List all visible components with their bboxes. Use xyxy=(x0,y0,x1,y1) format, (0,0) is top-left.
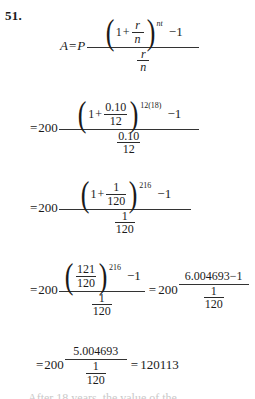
step4-inner-fraction: 121 120 xyxy=(76,263,96,289)
step1-minus-one: −1 xyxy=(163,24,183,40)
equation-step-4: = 200 ( 121 120 ) 216 −1 xyxy=(30,262,250,318)
step2-equals: = xyxy=(30,120,38,136)
step4-numerator: ( 121 120 ) 216 −1 xyxy=(60,262,144,291)
step1-exponent: nt xyxy=(157,19,163,28)
step4-coefficient: 200 xyxy=(38,282,58,298)
step5-denominator: 1 120 xyxy=(82,360,110,386)
step5-coefficient: 200 xyxy=(44,357,64,373)
paren-left-icon: ( xyxy=(80,180,89,209)
step4-main-fraction: ( 121 120 ) 216 −1 1 xyxy=(59,262,145,318)
step3-inner-fraction: 1 120 xyxy=(106,181,126,207)
math-solution-page: 51. A = P ( 1 + r n ) xyxy=(0,0,255,399)
step1-main-fraction: ( 1 + r n ) nt −1 xyxy=(87,18,199,74)
paren-right-icon: ) xyxy=(146,18,155,47)
step4-second-fraction: 6.004693−1 1 120 xyxy=(179,269,249,311)
step5-denominator-fraction: 1 120 xyxy=(86,360,106,386)
step5-equals: = xyxy=(36,357,44,373)
step4-second-equals: = xyxy=(146,282,158,298)
step2-coefficient: 200 xyxy=(38,120,58,136)
paren-right-icon: ) xyxy=(129,180,138,209)
step2-denominator-denominator: 12 xyxy=(122,143,136,156)
step1-inner-fraction-numerator: r xyxy=(134,19,141,32)
step2-inner-fraction: 0.10 12 xyxy=(104,101,127,127)
step5-main-fraction: 5.004693 1 120 xyxy=(65,344,127,386)
plus-icon: + xyxy=(97,187,106,202)
step2-numerator: ( 1 + 0.10 12 ) 12(18) −1 xyxy=(73,100,184,129)
step2-inner-fraction-denominator: 12 xyxy=(109,115,123,128)
step5-denominator-numerator: 1 xyxy=(92,360,100,373)
step5-numerator: 5.004693 xyxy=(70,344,121,359)
step1-inner-fraction: r n xyxy=(132,19,144,45)
step4-inner-fraction-numerator: 121 xyxy=(76,263,96,276)
equation-step-3: = 200 ( 1 + 1 120 ) 216 xyxy=(30,180,192,236)
step4-second-denominator-denominator: 120 xyxy=(204,298,224,311)
step4-exponent: 216 xyxy=(109,263,121,272)
step5-result-equals: = xyxy=(128,357,140,373)
step4-second-numerator: 6.004693−1 xyxy=(182,269,246,284)
problem-number: 51. xyxy=(5,8,22,24)
step4-paren-group: ( 121 120 ) 216 xyxy=(63,262,121,291)
step3-numerator: ( 1 + 1 120 ) 216 −1 xyxy=(76,180,175,209)
step1-denominator-denominator: n xyxy=(139,61,147,74)
equation-step-5: = 200 5.004693 1 120 = 120113 xyxy=(36,344,179,386)
step2-inner-fraction-numerator: 0.10 xyxy=(104,101,127,114)
step3-equals: = xyxy=(30,200,38,216)
step1-paren-group: ( 1 + r n ) nt xyxy=(104,18,163,47)
step3-denominator-denominator: 120 xyxy=(115,223,135,236)
step3-denominator-numerator: 1 xyxy=(121,210,129,223)
paren-right-icon: ) xyxy=(130,100,139,129)
paren-left-icon: ( xyxy=(65,262,74,291)
step2-exponent: 12(18) xyxy=(140,101,161,110)
step4-minus-one: −1 xyxy=(121,268,141,284)
step3-coefficient: 200 xyxy=(38,200,58,216)
step1-numerator: ( 1 + r n ) nt −1 xyxy=(101,18,186,47)
step4-second-denominator: 1 120 xyxy=(200,285,228,311)
step2-paren-group: ( 1 + 0.10 12 ) 12(18) xyxy=(76,100,161,129)
step5-denominator-denominator: 120 xyxy=(86,374,106,387)
paren-left-icon: ( xyxy=(105,18,114,47)
step2-minus-one: −1 xyxy=(161,106,181,122)
step4-inner-fraction-denominator: 120 xyxy=(76,277,96,290)
paren-left-icon: ( xyxy=(78,100,87,129)
step1-inner-fraction-denominator: n xyxy=(134,33,142,46)
step5-result: 120113 xyxy=(140,357,179,373)
step1-lhs: A xyxy=(60,38,69,54)
step4-second-coefficient: 200 xyxy=(158,282,178,298)
step3-main-fraction: ( 1 + 1 120 ) 216 −1 xyxy=(59,180,191,236)
step3-minus-one: −1 xyxy=(151,186,171,202)
step3-inner-fraction-numerator: 1 xyxy=(112,181,120,194)
plus-icon: + xyxy=(122,25,131,40)
step3-paren-group: ( 1 + 1 120 ) 216 xyxy=(79,180,152,209)
step1-coefficient: P xyxy=(77,38,86,54)
step3-exponent: 216 xyxy=(139,181,151,190)
step1-denominator-numerator: r xyxy=(140,48,147,61)
step3-inner-fraction-denominator: 120 xyxy=(106,195,126,208)
equation-step-1: A = P ( 1 + r n ) nt xyxy=(60,18,200,74)
cutoff-text-line: After 18 years, the value of the xyxy=(28,391,177,399)
step2-main-fraction: ( 1 + 0.10 12 ) 12(18) −1 xyxy=(59,100,199,156)
step4-equals: = xyxy=(30,282,38,298)
equation-step-2: = 200 ( 1 + 0.10 12 ) 12(18) xyxy=(30,100,200,156)
step4-denominator-denominator: 120 xyxy=(92,305,112,318)
paren-right-icon: ) xyxy=(99,262,108,291)
plus-icon: + xyxy=(94,107,103,122)
step4-second-denominator-numerator: 1 xyxy=(210,285,218,298)
step4-second-denominator-fraction: 1 120 xyxy=(204,285,224,311)
